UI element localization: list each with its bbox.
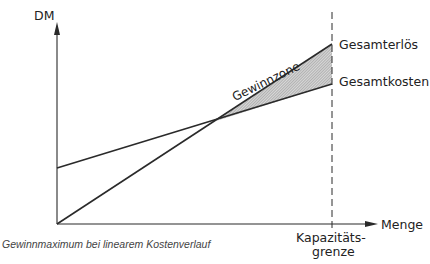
revenue-label: Gesamterlös: [339, 38, 418, 51]
x-axis-arrow-icon: [365, 221, 378, 227]
y-axis-arrow-icon: [54, 22, 60, 35]
cost-label: Gesamtkosten: [339, 75, 429, 88]
total-cost-line: [57, 84, 332, 168]
figure-caption: Gewinnmaximum bei linearem Kostenverlauf: [2, 238, 210, 250]
y-axis-label: DM: [34, 9, 54, 22]
capacity-label-line1: Kapazitäts-: [296, 231, 366, 244]
capacity-label-line2: grenze: [312, 245, 355, 258]
x-axis-label: Menge: [381, 218, 423, 231]
